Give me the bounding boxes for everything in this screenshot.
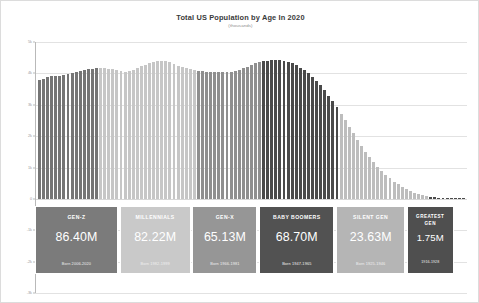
bar	[197, 71, 200, 199]
chart-container: Total US Population by Age In 2020 (thou…	[0, 0, 479, 303]
bar	[344, 120, 347, 199]
bar	[221, 72, 224, 199]
bar	[401, 187, 404, 199]
bar	[156, 61, 159, 199]
y-axis-tick-label: -3k	[27, 291, 32, 295]
y-axis-tick-label: 4k	[28, 71, 32, 75]
bar	[140, 66, 143, 198]
bar	[421, 195, 424, 199]
bar	[54, 76, 57, 199]
generation-name: BABY BOOMERS	[273, 214, 320, 221]
y-axis-tick-label: 0	[30, 197, 32, 201]
bar	[128, 71, 131, 199]
bar	[111, 69, 114, 199]
generation-population-value: 1.75M	[417, 232, 444, 243]
bar	[189, 69, 192, 199]
bar	[417, 194, 420, 199]
y-axis-tick-label: -1k	[27, 228, 32, 232]
bar	[250, 65, 253, 199]
bar	[38, 80, 41, 199]
bar	[327, 96, 330, 199]
bar	[352, 133, 355, 199]
generation-birth-years: 1916-1928	[408, 260, 453, 264]
bar	[62, 75, 65, 199]
bar	[360, 146, 363, 199]
y-axis-tick-mark	[33, 73, 35, 74]
y-axis-tick-mark	[33, 42, 35, 43]
bar	[331, 101, 334, 199]
bar	[79, 71, 82, 199]
bar	[71, 73, 74, 199]
bar	[393, 182, 396, 199]
generation-card[interactable]: MILLENNIALS82.22MBorn 1982-1999	[120, 206, 191, 274]
generation-population-value: 86.40M	[56, 230, 98, 244]
y-axis-tick-label: 3k	[28, 103, 32, 107]
bar	[433, 197, 436, 198]
bar	[368, 157, 371, 198]
bar	[458, 198, 461, 199]
generation-name: GEN-X	[216, 214, 234, 221]
bar	[405, 189, 408, 199]
generation-card[interactable]: SILENT GEN23.63MBorn 1925-1946	[336, 206, 405, 274]
bar	[103, 68, 106, 199]
bar	[307, 73, 310, 199]
bar	[242, 68, 245, 199]
y-axis-tick-mark	[33, 136, 35, 137]
bar	[372, 162, 375, 198]
bar	[340, 114, 343, 199]
bar	[287, 62, 290, 199]
generation-cards: GEN-Z86.40MBorn 2006-2020MILLENNIALS82.2…	[35, 206, 467, 274]
bar	[46, 77, 49, 198]
bar	[380, 171, 383, 199]
bar	[454, 198, 457, 199]
chart-title: Total US Population by Age In 2020	[1, 13, 479, 22]
bar	[299, 68, 302, 199]
bar	[99, 68, 102, 199]
bar	[87, 69, 90, 199]
bar	[266, 61, 269, 199]
bar	[193, 70, 196, 199]
bar	[148, 63, 151, 199]
bar	[425, 196, 428, 199]
y-axis-tick-mark	[33, 104, 35, 105]
bar	[177, 66, 180, 199]
bar	[164, 61, 167, 199]
bar	[42, 79, 45, 199]
generation-card[interactable]: GEN-Z86.40MBorn 2006-2020	[35, 206, 118, 274]
bar	[437, 198, 440, 199]
bar	[217, 72, 220, 199]
bar	[185, 68, 188, 199]
bar	[262, 61, 265, 199]
bar	[442, 198, 445, 199]
bar	[226, 72, 229, 199]
bar	[258, 62, 261, 199]
gridline	[35, 293, 467, 294]
bar	[336, 107, 339, 199]
bar	[246, 67, 249, 199]
bar	[181, 67, 184, 199]
bar	[95, 68, 98, 199]
bar	[50, 76, 53, 198]
generation-population-value: 82.22M	[134, 230, 176, 244]
bar	[160, 61, 163, 199]
y-axis-tick-label: -2k	[27, 260, 32, 264]
y-axis-tick-label: 2k	[28, 134, 32, 138]
bar	[295, 65, 298, 199]
generation-card[interactable]: GREATEST GEN1.75M1916-1928	[407, 206, 454, 274]
generation-birth-years: Born 1925-1946	[337, 261, 404, 266]
bar	[446, 198, 449, 199]
bar	[319, 85, 322, 199]
generation-name: GEN-Z	[67, 214, 85, 221]
bar	[201, 71, 204, 199]
bar	[213, 72, 216, 199]
generation-card[interactable]: GEN-X65.13MBorn 1966-1981	[192, 206, 257, 274]
y-axis-tick-mark	[33, 293, 35, 294]
bar	[132, 70, 135, 199]
y-axis-tick-mark	[33, 198, 35, 199]
bar	[168, 62, 171, 198]
generation-birth-years: Born 1947-1965	[260, 261, 333, 266]
bar	[278, 60, 281, 199]
generation-card[interactable]: BABY BOOMERS68.70MBorn 1947-1965	[259, 206, 334, 274]
bar	[144, 65, 147, 199]
bar	[291, 63, 294, 199]
